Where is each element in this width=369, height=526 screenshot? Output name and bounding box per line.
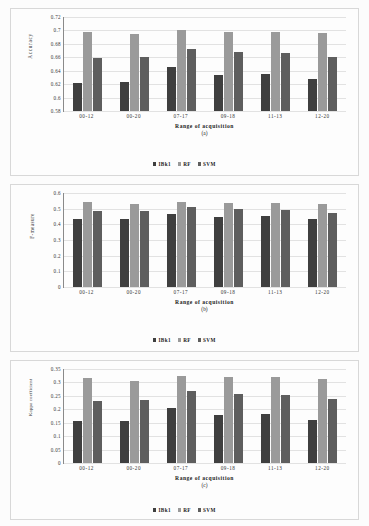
bar-rf xyxy=(177,376,186,463)
bar-group xyxy=(120,193,148,287)
x-tick-label: 07-17 xyxy=(159,289,203,295)
y-tick-label: 0.72 xyxy=(51,14,61,20)
bar-ibk1 xyxy=(73,219,82,287)
bar-ibk1 xyxy=(261,74,270,111)
x-tick-label: 12-20 xyxy=(300,113,344,119)
legend-label: SVM xyxy=(203,507,216,513)
plot-a xyxy=(63,17,346,112)
y-tick-label: 0.64 xyxy=(51,68,61,74)
bar-groups-c xyxy=(64,369,346,463)
bar-rf xyxy=(271,203,280,287)
bar-ibk1 xyxy=(120,219,129,287)
legend-swatch-icon xyxy=(198,338,201,341)
legend-label: SVM xyxy=(203,161,216,167)
bar-ibk1 xyxy=(167,408,176,463)
bar-ibk1 xyxy=(261,216,270,287)
y-tick-label: 0 xyxy=(58,284,61,290)
x-tick-label: 11-13 xyxy=(253,465,297,471)
bar-ibk1 xyxy=(214,415,223,463)
gridline xyxy=(64,111,346,112)
bar-ibk1 xyxy=(308,219,317,287)
bar-ibk1 xyxy=(73,83,82,111)
y-tick-label: 0.62 xyxy=(51,81,61,87)
legend-item-svm: SVM xyxy=(198,161,216,167)
legend-item-ibk1: IBk1 xyxy=(153,161,171,167)
y-axis-title-c: Kappa coefficient xyxy=(28,363,33,433)
bar-svm xyxy=(187,391,196,463)
bar-ibk1 xyxy=(120,82,129,111)
bar-group xyxy=(214,17,242,111)
x-tick-label: 00-20 xyxy=(112,465,156,471)
legend-swatch-icon xyxy=(198,162,201,165)
y-axis-tick-labels-c: 00.050.10.150.20.250.30.35 xyxy=(35,369,61,463)
x-tick-label: 00-20 xyxy=(112,289,156,295)
legend-a: IBk1RFSVM xyxy=(11,161,358,167)
bar-group xyxy=(73,369,101,463)
bar-svm xyxy=(187,207,196,287)
chart-panel-b: F-measure 00.10.20.30.40.50.6 00-1200-20… xyxy=(10,184,359,352)
bar-svm xyxy=(281,395,290,463)
bar-group xyxy=(261,17,289,111)
y-tick-label: 0.6 xyxy=(54,190,61,196)
x-tick-label: 07-17 xyxy=(159,465,203,471)
chart-panel-c: Kappa coefficient 00.050.10.150.20.250.3… xyxy=(10,360,359,520)
bar-ibk1 xyxy=(73,421,82,463)
bar-group xyxy=(167,17,195,111)
y-tick-label: 0.58 xyxy=(51,108,61,114)
y-tick-label: 0.25 xyxy=(51,393,61,399)
bar-svm xyxy=(140,400,149,463)
bar-ibk1 xyxy=(261,414,270,463)
y-tick-label: 0.5 xyxy=(54,206,61,212)
y-tick-label: 0.1 xyxy=(54,268,61,274)
legend-swatch-icon xyxy=(178,162,181,165)
gridline xyxy=(64,463,346,464)
panel-caption-a: (a) xyxy=(63,130,346,136)
bar-svm xyxy=(93,211,102,287)
x-tick-label: 00-20 xyxy=(112,113,156,119)
x-tick-label: 11-13 xyxy=(253,289,297,295)
x-tick-label: 07-17 xyxy=(159,113,203,119)
bar-svm xyxy=(234,52,243,111)
x-axis-tick-labels-a: 00-1200-2007-1709-1811-1312-20 xyxy=(63,113,346,119)
bar-group xyxy=(308,17,336,111)
x-tick-label: 12-20 xyxy=(300,465,344,471)
panel-caption-b: (b) xyxy=(63,306,346,312)
y-axis-tick-labels-a: 0.580.60.620.640.660.680.70.72 xyxy=(35,17,61,111)
plot-area-b: F-measure 00.10.20.30.40.50.6 00-1200-20… xyxy=(11,185,358,303)
legend-swatch-icon xyxy=(198,508,201,511)
bar-groups-b xyxy=(64,193,346,287)
x-axis-tick-labels-b: 00-1200-2007-1709-1811-1312-20 xyxy=(63,289,346,295)
x-tick-label: 09-18 xyxy=(206,465,250,471)
bar-group xyxy=(73,193,101,287)
x-tick-label: 09-18 xyxy=(206,113,250,119)
y-tick-label: 0.6 xyxy=(54,95,61,101)
bar-rf xyxy=(318,33,327,111)
bar-rf xyxy=(130,381,139,463)
legend-b: IBk1RFSVM xyxy=(11,337,358,343)
bar-rf xyxy=(177,30,186,111)
y-tick-label: 0.68 xyxy=(51,41,61,47)
legend-label: RF xyxy=(183,507,191,513)
y-tick-label: 0.35 xyxy=(51,366,61,372)
bar-svm xyxy=(140,211,149,287)
x-axis-title-b: Range of acquisition xyxy=(63,299,346,305)
bar-svm xyxy=(93,58,102,111)
bar-rf xyxy=(83,32,92,111)
plot-c xyxy=(63,369,346,464)
legend-label: SVM xyxy=(203,337,216,343)
y-tick-label: 0.4 xyxy=(54,221,61,227)
x-tick-label: 11-13 xyxy=(253,113,297,119)
plot-b xyxy=(63,193,346,288)
legend-c: IBk1RFSVM xyxy=(11,507,358,513)
bar-ibk1 xyxy=(308,79,317,111)
bar-svm xyxy=(281,210,290,287)
y-tick-label: 0.2 xyxy=(54,406,61,412)
bar-groups-a xyxy=(64,17,346,111)
y-axis-tick-labels-b: 00.10.20.30.40.50.6 xyxy=(35,193,61,287)
bar-svm xyxy=(140,57,149,111)
y-axis-title-a: Accuracy xyxy=(27,11,33,81)
x-tick-label: 00-12 xyxy=(65,289,109,295)
bar-ibk1 xyxy=(120,421,129,463)
bar-svm xyxy=(328,399,337,463)
y-tick-label: 0.1 xyxy=(54,433,61,439)
